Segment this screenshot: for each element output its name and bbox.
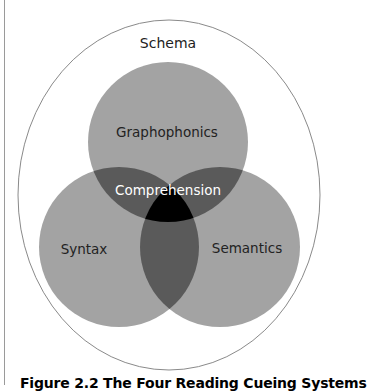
figure-caption: Figure 2.2 The Four Reading Cueing Syste… <box>20 375 367 391</box>
schema-label: Schema <box>140 35 196 51</box>
syntax-label: Syntax <box>61 241 108 257</box>
comprehension-label: Comprehension <box>115 182 221 198</box>
semantics-label: Semantics <box>212 240 282 256</box>
graphophonics-label: Graphophonics <box>116 124 218 140</box>
